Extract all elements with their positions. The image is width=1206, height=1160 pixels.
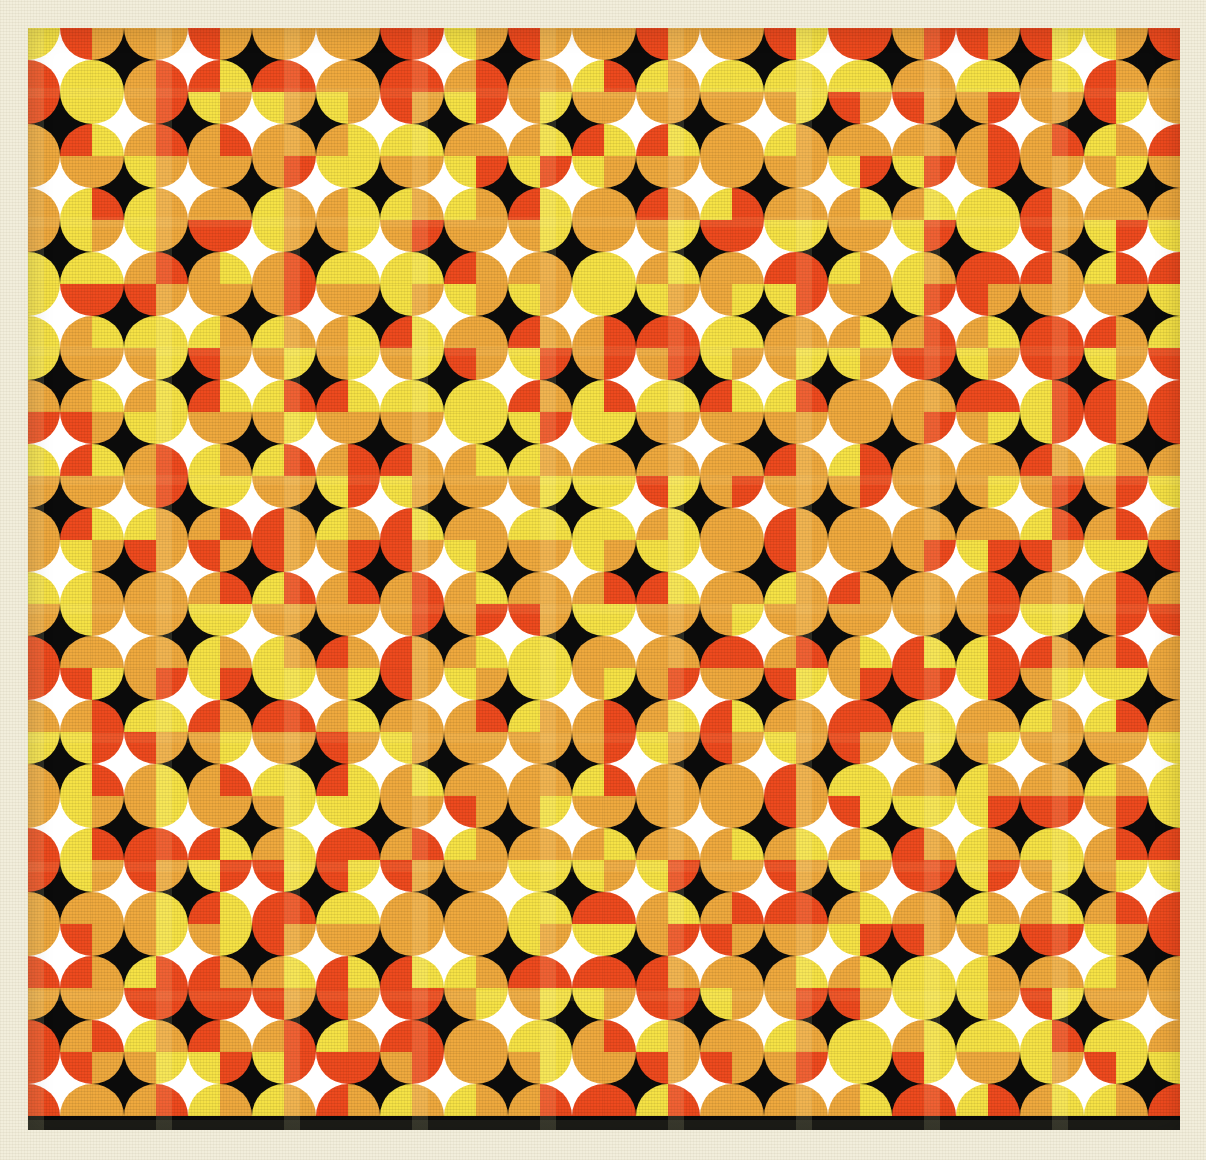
quarter-circle-tr <box>252 732 284 764</box>
pattern-cell <box>156 924 220 988</box>
pattern-cell <box>92 988 156 1052</box>
quarter-circle-tr <box>828 156 860 188</box>
quarter-circle-tr <box>892 284 924 316</box>
quarter-circle-br <box>1084 124 1116 156</box>
quarter-circle-tl <box>284 604 316 636</box>
quarter-circle-tl <box>732 220 764 252</box>
quarter-circle-tr <box>444 156 476 188</box>
quarter-circle-bl <box>1116 1084 1148 1116</box>
pattern-cell <box>540 796 604 860</box>
quarter-circle-tl <box>668 28 700 60</box>
quarter-circle-bl <box>476 700 508 732</box>
pattern-cell <box>156 476 220 540</box>
quarter-circle-br <box>892 444 924 476</box>
quarter-circle-bl <box>92 956 124 988</box>
pattern-cell <box>540 28 604 92</box>
quarter-circle-br <box>188 636 220 668</box>
quarter-circle-bl <box>860 764 892 796</box>
pattern-cell <box>284 860 348 924</box>
quarter-circle-bl <box>796 444 828 476</box>
quarter-circle-tr <box>252 796 284 828</box>
quarter-circle-bl <box>348 764 380 796</box>
quarter-circle-br <box>892 380 924 412</box>
pattern-cell <box>92 348 156 412</box>
quarter-circle-bl <box>476 508 508 540</box>
pattern-cell <box>796 604 860 668</box>
quarter-circle-br <box>828 572 860 604</box>
quarter-circle-tl <box>988 156 1020 188</box>
pattern-cell <box>156 156 220 220</box>
quarter-circle-br <box>508 892 540 924</box>
pattern-cell <box>284 412 348 476</box>
pattern-cell <box>1052 92 1116 156</box>
quarter-circle-bl <box>924 892 956 924</box>
quarter-circle-tr <box>188 412 220 444</box>
pattern-cell <box>796 796 860 860</box>
pattern-cell <box>924 668 988 732</box>
quarter-circle-bl <box>220 188 252 220</box>
pattern-cell <box>924 220 988 284</box>
quarter-circle-tl <box>92 348 124 380</box>
quarter-circle-tr <box>828 732 860 764</box>
quarter-circle-tl <box>988 796 1020 828</box>
quarter-circle-br <box>956 380 988 412</box>
artwork-canvas <box>0 0 1206 1160</box>
quarter-circle-br <box>1148 828 1180 860</box>
quarter-circle-br <box>188 764 220 796</box>
quarter-circle-br <box>444 892 476 924</box>
quarter-circle-tr <box>892 1052 924 1084</box>
quarter-circle-tl <box>732 476 764 508</box>
quarter-circle-br <box>572 252 604 284</box>
quarter-circle-tl <box>668 156 700 188</box>
pattern-cell <box>988 924 1052 988</box>
quarter-circle-tr <box>444 220 476 252</box>
quarter-circle-tr <box>124 860 156 892</box>
quarter-circle-br <box>124 124 156 156</box>
quarter-circle-tl <box>1116 796 1148 828</box>
quarter-circle-br <box>1084 572 1116 604</box>
pattern-cell <box>604 220 668 284</box>
quarter-circle-bl <box>348 636 380 668</box>
quarter-circle-tr <box>1020 540 1052 572</box>
quarter-circle-bl <box>156 636 188 668</box>
quarter-circle-br <box>60 252 92 284</box>
quarter-circle-tr <box>956 284 988 316</box>
pattern-cell <box>284 668 348 732</box>
quarter-circle-bl <box>732 572 764 604</box>
quarter-circle-bl <box>348 956 380 988</box>
pattern-cell <box>540 732 604 796</box>
pattern-cell <box>28 540 92 604</box>
quarter-circle-tl <box>540 924 572 956</box>
pattern-cell <box>988 284 1052 348</box>
quarter-circle-tl <box>284 476 316 508</box>
pattern-cell <box>284 284 348 348</box>
quarter-circle-bl <box>284 956 316 988</box>
quarter-circle-bl <box>220 508 252 540</box>
quarter-circle-tl <box>732 540 764 572</box>
quarter-circle-tl <box>924 732 956 764</box>
pattern-cell <box>1116 476 1180 540</box>
quarter-circle-tl <box>220 220 252 252</box>
pattern-cell <box>988 28 1052 92</box>
quarter-circle-tl <box>476 604 508 636</box>
quarter-circle-tl <box>284 796 316 828</box>
pattern-cell <box>604 540 668 604</box>
quarter-circle-tl <box>604 540 636 572</box>
quarter-circle-bl <box>732 316 764 348</box>
quarter-circle-bl <box>796 380 828 412</box>
quarter-circle-tr <box>252 1052 284 1084</box>
quarter-circle-br <box>764 188 796 220</box>
quarter-circle-tr <box>188 284 220 316</box>
quarter-circle-tr <box>1020 476 1052 508</box>
pattern-cell <box>860 92 924 156</box>
quarter-circle-tr <box>124 604 156 636</box>
quarter-circle-tr <box>892 924 924 956</box>
quarter-circle-tl <box>1116 668 1148 700</box>
quarter-circle-tr <box>572 924 604 956</box>
quarter-circle-tl <box>860 988 892 1020</box>
quarter-circle-br <box>1020 1020 1052 1052</box>
quarter-circle-tl <box>284 92 316 124</box>
pattern-cell <box>1116 284 1180 348</box>
pattern-cell <box>604 412 668 476</box>
quarter-circle-br <box>572 828 604 860</box>
